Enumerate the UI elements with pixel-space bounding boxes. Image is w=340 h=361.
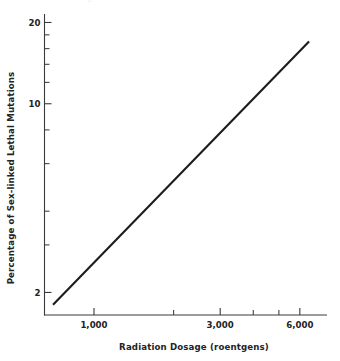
figure-chart-radiation-mutations: ytv nf stvrlv 20102 1,0003,0006,000 Radi… [0,0,340,361]
y-tick-label: 10 [29,99,41,109]
chart-canvas: 20102 1,0003,0006,000 Radiation Dosage (… [0,0,340,361]
x-tick-label: 3,000 [207,320,234,330]
x-tick-label: 1,000 [80,320,107,330]
y-axis-tick-labels: 20102 [29,18,41,298]
y-tick-label: 2 [35,288,41,298]
data-series-line [53,42,309,305]
y-tick-label: 20 [29,18,41,28]
x-axis-ticks [94,308,300,315]
y-axis-ticks [45,22,52,292]
x-axis-tick-labels: 1,0003,0006,000 [80,320,313,330]
x-axis-title: Radiation Dosage (roentgens) [119,342,269,352]
y-axis-title: Percentage of Sex-linked Lethal Mutation… [6,72,16,285]
x-tick-label: 6,000 [286,320,313,330]
series-line [53,42,309,305]
